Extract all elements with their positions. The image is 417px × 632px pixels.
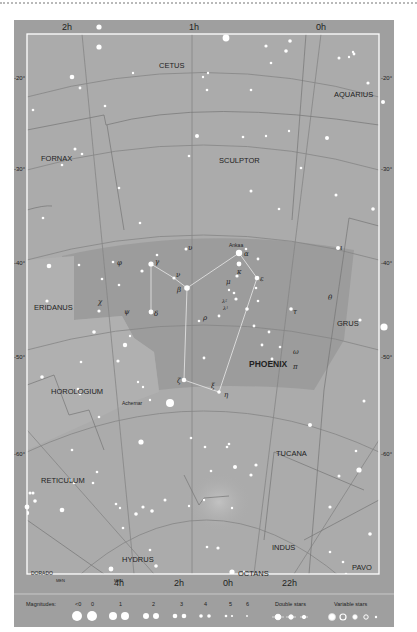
greek-upsilon: υ — [188, 244, 193, 252]
ra-label-top: 0h — [316, 22, 326, 32]
constellation-label-cetus: CETUS — [159, 61, 184, 70]
star-name-ankaa: Ankaa — [229, 242, 243, 248]
constellation-label-dorado: DORADO — [31, 570, 53, 576]
greek-rho: ρ — [202, 314, 208, 322]
dec-label-left: -40° — [14, 260, 26, 266]
legend-variable-stars: Variable stars — [334, 601, 367, 607]
constellation-label-indus: INDUS — [272, 543, 295, 552]
constellation-label-grus: GRUS — [337, 319, 359, 328]
legend-magnitudes-label: Magnitudes: — [26, 601, 56, 607]
dec-label-left: -30° — [14, 166, 26, 172]
ra-label-top: 2h — [62, 22, 72, 32]
star — [381, 100, 385, 104]
constellation-label-fornax: FORNAX — [41, 154, 72, 163]
constellation-label-aquarius: AQUARIUS — [334, 90, 373, 99]
greek-lambda1: λ¹ — [222, 305, 228, 311]
dec-label-left: -20° — [14, 75, 26, 81]
star-name-achernar: Achernar — [122, 400, 143, 406]
legend-mag-label: 4 — [204, 601, 207, 607]
greek-phi: φ — [117, 259, 122, 267]
constellation-label-phoenix: PHOENIX — [249, 359, 288, 369]
constellation-label-pavo: PAVO — [352, 563, 372, 572]
legend-double-star-symbols — [272, 614, 308, 620]
legend-mag-label: 1 — [119, 601, 122, 607]
greek-kappa: κ — [236, 268, 242, 276]
greek-pi: π — [292, 363, 298, 371]
greek-omega: ω — [293, 348, 299, 356]
constellation-label-mensa: MEN — [56, 578, 65, 583]
nebula-glow — [187, 472, 251, 532]
dec-label-right: -30° — [381, 166, 393, 172]
greek-epsilon: ε — [260, 275, 264, 283]
legend-variable-star-symbols — [329, 614, 378, 621]
star — [96, 24, 101, 29]
greek-psi: ψ — [124, 308, 130, 316]
dec-label-left: -50° — [14, 354, 26, 360]
greek-alpha: α — [244, 250, 249, 258]
greek-tau: τ — [293, 308, 297, 316]
constellation-label-eridanus: ERIDANUS — [34, 303, 73, 312]
greek-nu: ν — [176, 271, 181, 279]
legend-mag-label: 0 — [91, 601, 94, 607]
legend-mag-label: 5 — [229, 601, 232, 607]
ra-label-bottom: 22h — [282, 578, 297, 588]
legend-magnitude-dots — [72, 611, 248, 621]
greek-beta: β — [176, 286, 181, 294]
legend-double-stars: Double stars — [275, 601, 306, 607]
greek-chi: χ — [97, 298, 103, 306]
legend-mag-label: 6 — [246, 601, 249, 607]
ra-label-bottom: 0h — [223, 578, 233, 588]
constellation-label-hydrus: HYDRUS — [122, 555, 154, 564]
constellation-label-octans: OCTANS — [238, 569, 269, 578]
legend-mag-label: 3 — [180, 601, 183, 607]
greek-delta: δ — [154, 310, 158, 318]
constellation-label-horologium: HOROLOGIUM — [51, 387, 103, 396]
dec-label-right: -40° — [381, 260, 393, 266]
dec-label-right: -60° — [381, 451, 393, 457]
constellation-label-mensa: MEN — [114, 578, 123, 583]
top-dotted-rule — [0, 2, 417, 4]
star-chart: 2h 1h 0h 4h 2h 0h 22h -20° -30° -40° -50… — [14, 20, 394, 627]
dec-label-right: -20° — [381, 75, 393, 81]
legend: Magnitudes: <0 0 1 2 3 4 5 6 Double star… — [26, 601, 382, 627]
constellation-label-reticulum: RETICULUM — [41, 476, 85, 485]
constellation-label-sculptor: SCULPTOR — [219, 156, 260, 165]
constellation-label-tucana: TUCANA — [276, 449, 307, 458]
dec-label-right: -50° — [381, 354, 393, 360]
legend-mag-label: <0 — [75, 601, 81, 607]
greek-mu: μ — [226, 278, 231, 286]
greek-lambda2: λ² — [221, 298, 227, 304]
ra-label-top: 1h — [189, 22, 199, 32]
dec-label-left: -60° — [14, 451, 26, 457]
star-chart-panel: 2h 1h 0h 4h 2h 0h 22h -20° -30° -40° -50… — [14, 20, 394, 627]
legend-mag-label: 2 — [152, 601, 155, 607]
star — [380, 323, 387, 330]
star — [25, 505, 30, 510]
greek-iota: ι — [340, 244, 343, 252]
ra-label-bottom: 2h — [174, 578, 184, 588]
legend-galaxy-icon — [335, 626, 347, 627]
